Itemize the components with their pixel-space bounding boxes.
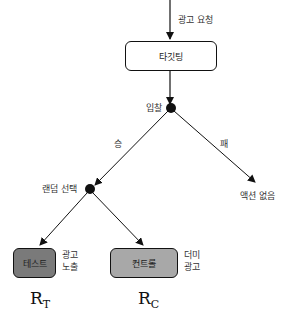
dummy-ad-line2: 광고 — [184, 261, 200, 273]
no-action-label: 액션 없음 — [240, 190, 275, 202]
bid-label: 입찰 — [146, 102, 162, 114]
dummy-ad-line1: 더미 — [184, 249, 200, 261]
show-ad-line2: 노출 — [62, 261, 78, 273]
rc-base: R — [138, 288, 151, 308]
rt-sub: T — [43, 298, 50, 311]
lose-label: 패 — [220, 138, 228, 150]
dummy-ad-label: 더미 광고 — [184, 249, 200, 273]
show-ad-label: 광고 노출 — [62, 249, 78, 273]
control-label: 컨트롤 — [132, 257, 156, 270]
show-ad-line1: 광고 — [62, 249, 78, 261]
ad-request-label: 광고 요청 — [178, 14, 213, 26]
control-box: 컨트롤 — [110, 248, 178, 278]
test-label: 테스트 — [23, 257, 47, 270]
rt-symbol: RT — [30, 288, 50, 311]
targeting-box: 타깃팅 — [125, 41, 217, 71]
rc-sub: C — [151, 298, 159, 311]
rt-base: R — [30, 288, 43, 308]
win-label: 승 — [114, 138, 122, 150]
rc-symbol: RC — [138, 288, 159, 311]
random-select-label: 랜덤 선택 — [42, 183, 77, 195]
random-select-node — [85, 184, 95, 194]
targeting-label: 타깃팅 — [159, 50, 183, 63]
test-box: 테스트 — [13, 248, 56, 278]
